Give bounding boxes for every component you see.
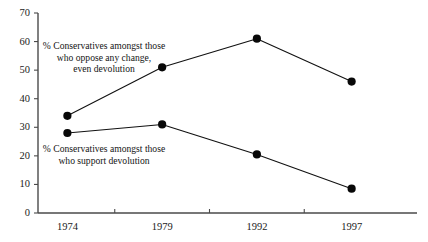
y-axis-tick-label: 10	[2, 179, 30, 190]
data-point	[348, 185, 356, 193]
y-axis-tick-label: 60	[2, 36, 30, 47]
y-axis-tick-label: 0	[2, 208, 30, 219]
data-point	[158, 120, 166, 128]
data-point	[63, 112, 71, 120]
y-axis-tick-label: 20	[2, 151, 30, 162]
annotation-oppose-any-change: % Conservatives amongst thosewho oppose …	[31, 40, 177, 75]
data-point	[253, 35, 261, 43]
annotation-line: who oppose any change,	[31, 52, 177, 64]
data-point	[348, 77, 356, 85]
x-axis-tick-label: 1997	[341, 222, 362, 233]
y-axis-tick-label: 30	[2, 122, 30, 133]
x-axis-tick-label: 1992	[246, 222, 267, 233]
data-point	[253, 150, 261, 158]
chart-figure: 010203040506070 1974197919921997 % Conse…	[0, 0, 428, 242]
annotation-support-devolution: % Conservatives amongst thosewho support…	[31, 143, 177, 166]
x-axis-tick-label: 1979	[152, 222, 173, 233]
y-axis-tick-label: 70	[2, 8, 30, 19]
x-axis-tick-label: 1974	[57, 222, 78, 233]
annotation-line: % Conservatives amongst those	[31, 143, 177, 155]
data-point	[63, 129, 71, 137]
y-axis-tick-label: 50	[2, 65, 30, 76]
annotation-line: who support devolution	[31, 155, 177, 167]
chart-plot-area	[0, 0, 428, 242]
annotation-line: even devolution	[31, 63, 177, 75]
annotation-line: % Conservatives amongst those	[31, 40, 177, 52]
y-axis-tick-label: 40	[2, 93, 30, 104]
